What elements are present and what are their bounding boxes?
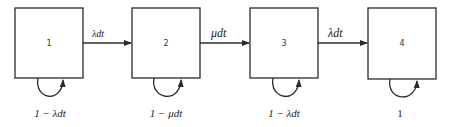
self-loop-3 [273,78,299,96]
self-loop-4-label: 1 [397,107,403,119]
markov-diagram: 1 1 − λdt λdt 2 1 − μdt μdt 3 1 − λdt λd… [0,0,455,127]
self-loop-2 [154,78,181,96]
transition-3-4: λdt [318,26,367,43]
self-loop-1 [38,78,63,96]
self-loop-3-label: 1 − λdt [268,107,301,119]
state-4: 4 1 [368,8,436,119]
state-3-label: 3 [281,39,286,48]
self-loop-4 [390,79,417,97]
state-4-label: 4 [399,39,404,48]
state-1: 1 1 − λdt [15,8,83,119]
state-3: 3 1 − λdt [250,8,318,119]
state-1-label: 1 [46,39,51,48]
transition-2-3: μdt [200,26,249,43]
transition-1-2: λdt [83,28,131,43]
transition-1-2-label: λdt [91,28,104,39]
self-loop-1-label: 1 − λdt [34,107,67,119]
self-loop-2-label: 1 − μdt [150,107,183,119]
transition-2-3-label: μdt [210,26,227,40]
state-2: 2 1 − μdt [132,8,200,119]
transition-3-4-label: λdt [327,26,343,40]
state-2-label: 2 [163,39,168,48]
